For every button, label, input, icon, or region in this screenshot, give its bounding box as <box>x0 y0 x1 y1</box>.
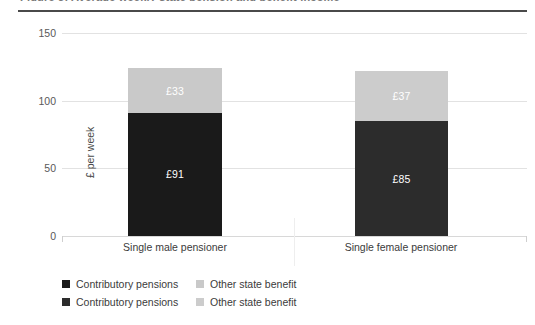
category-separator <box>294 218 295 266</box>
bar-single-male-pensioner[interactable]: £33 £91 <box>128 68 222 236</box>
ytick-label-150: 150 <box>38 27 56 39</box>
bar-value-label: £91 <box>166 168 184 180</box>
legend-item-other-state-benefit[interactable]: Other state benefit <box>196 278 296 290</box>
legend-swatch-icon <box>196 298 204 306</box>
ytick-label-0: 0 <box>50 230 56 242</box>
xaxis-label-single-male-pensioner: Single male pensioner <box>123 241 227 253</box>
legend-item-contributory-pensions[interactable]: Contributory pensions <box>62 296 178 308</box>
legend-item-other-state-benefit[interactable]: Other state benefit <box>196 296 296 308</box>
bar-segment-other-state-benefit[interactable]: £37 <box>355 71 448 121</box>
chart-legend: Contributory pensions Other state benefi… <box>62 278 462 309</box>
yaxis-title: £ per week <box>84 127 96 178</box>
legend-label: Contributory pensions <box>76 296 178 308</box>
legend-item-contributory-pensions[interactable]: Contributory pensions <box>62 278 178 290</box>
legend-swatch-icon <box>62 280 70 288</box>
legend-label: Other state benefit <box>210 278 296 290</box>
ytick-label-50: 50 <box>44 162 56 174</box>
ytick-label-100: 100 <box>38 95 56 107</box>
figure-caption-cutoff: Figure 3: Average weekly state pension a… <box>20 0 340 1</box>
legend-label: Other state benefit <box>210 296 296 308</box>
bar-value-label: £33 <box>166 85 184 97</box>
gridline-150 <box>62 33 527 34</box>
chart-figure: Figure 3: Average weekly state pension a… <box>0 0 535 325</box>
legend-row: Contributory pensions Other state benefi… <box>62 278 462 291</box>
xaxis-tickmark <box>62 236 63 242</box>
plot-area: 150 100 50 0 £33 £91 £37 £85 £ <box>62 30 527 236</box>
xaxis-tickmark <box>526 236 527 242</box>
xaxis-label-single-female-pensioner: Single female pensioner <box>345 241 458 253</box>
bar-segment-contributory-pensions[interactable]: £85 <box>355 121 448 236</box>
bar-value-label: £85 <box>392 173 410 185</box>
header-rule <box>18 10 527 12</box>
legend-row: Contributory pensions Other state benefi… <box>62 296 462 309</box>
bar-segment-contributory-pensions[interactable]: £91 <box>128 113 222 236</box>
bar-segment-other-state-benefit[interactable]: £33 <box>128 68 222 113</box>
bar-value-label: £37 <box>392 90 410 102</box>
bar-single-female-pensioner[interactable]: £37 £85 <box>355 71 448 236</box>
legend-swatch-icon <box>62 298 70 306</box>
legend-swatch-icon <box>196 280 204 288</box>
legend-label: Contributory pensions <box>76 278 178 290</box>
